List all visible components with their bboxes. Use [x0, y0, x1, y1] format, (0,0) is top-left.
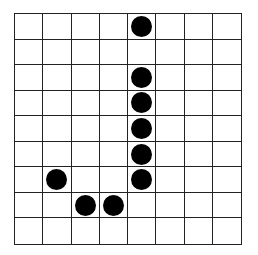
grid-cell-r5-c7: [213, 142, 241, 168]
grid-cell-r0-c4: [128, 14, 156, 40]
grid-cell-r8-c4: [128, 218, 156, 244]
grid-cell-r6-c7: [213, 167, 241, 193]
grid-cell-r7-c0: [15, 193, 43, 219]
grid-cell-r5-c5: [156, 142, 184, 168]
filled-dot: [131, 118, 152, 139]
grid-cell-r4-c1: [43, 116, 71, 142]
grid-cell-r2-c3: [100, 65, 128, 91]
grid-cell-r0-c1: [43, 14, 71, 40]
grid-cell-r1-c7: [213, 40, 241, 66]
grid-cell-r0-c7: [213, 14, 241, 40]
grid-cell-r3-c3: [100, 91, 128, 117]
filled-dot: [131, 67, 152, 88]
grid-cell-r0-c3: [100, 14, 128, 40]
grid-cell-r3-c5: [156, 91, 184, 117]
grid-cell-r1-c4: [128, 40, 156, 66]
grid-cell-r6-c4: [128, 167, 156, 193]
grid-cell-r7-c4: [128, 193, 156, 219]
grid-cell-r7-c3: [100, 193, 128, 219]
filled-dot: [131, 92, 152, 113]
grid-cell-r5-c6: [185, 142, 213, 168]
grid-cell-r3-c1: [43, 91, 71, 117]
grid-cell-r6-c0: [15, 167, 43, 193]
grid-cell-r4-c2: [72, 116, 100, 142]
grid-cell-r1-c6: [185, 40, 213, 66]
grid-cell-r7-c6: [185, 193, 213, 219]
grid-cell-r2-c4: [128, 65, 156, 91]
grid-cell-r2-c0: [15, 65, 43, 91]
grid-cell-r4-c0: [15, 116, 43, 142]
grid-cell-r7-c2: [72, 193, 100, 219]
grid-cell-r7-c5: [156, 193, 184, 219]
filled-dot: [131, 144, 152, 165]
grid-cell-r2-c6: [185, 65, 213, 91]
grid-cell-r8-c0: [15, 218, 43, 244]
grid-cell-r7-c1: [43, 193, 71, 219]
grid-cell-r3-c2: [72, 91, 100, 117]
grid-cell-r0-c6: [185, 14, 213, 40]
filled-dot: [131, 16, 152, 37]
grid-cell-r6-c6: [185, 167, 213, 193]
grid-cell-r2-c7: [213, 65, 241, 91]
dot-grid: [14, 13, 242, 245]
grid-cell-r1-c1: [43, 40, 71, 66]
grid-cell-r5-c2: [72, 142, 100, 168]
grid-cell-r3-c0: [15, 91, 43, 117]
grid-cell-r6-c1: [43, 167, 71, 193]
filled-dot: [75, 195, 96, 216]
grid-cell-r8-c3: [100, 218, 128, 244]
filled-dot: [103, 195, 124, 216]
grid-cell-r7-c7: [213, 193, 241, 219]
grid-cell-r8-c6: [185, 218, 213, 244]
grid-cell-r5-c3: [100, 142, 128, 168]
grid-cell-r1-c5: [156, 40, 184, 66]
grid-cell-r4-c6: [185, 116, 213, 142]
grid-cell-r4-c4: [128, 116, 156, 142]
grid-cell-r1-c2: [72, 40, 100, 66]
grid-cell-r8-c7: [213, 218, 241, 244]
filled-dot: [46, 169, 67, 190]
grid-cell-r0-c5: [156, 14, 184, 40]
grid-cell-r3-c6: [185, 91, 213, 117]
grid-cell-r6-c3: [100, 167, 128, 193]
grid-cell-r6-c2: [72, 167, 100, 193]
grid-cell-r8-c5: [156, 218, 184, 244]
filled-dot: [131, 169, 152, 190]
grid-cell-r3-c4: [128, 91, 156, 117]
grid-cell-r0-c2: [72, 14, 100, 40]
grid-cell-r6-c5: [156, 167, 184, 193]
grid-cell-r5-c4: [128, 142, 156, 168]
grid-cell-r4-c7: [213, 116, 241, 142]
grid-cell-r4-c5: [156, 116, 184, 142]
grid-cell-r5-c1: [43, 142, 71, 168]
grid-cell-r1-c0: [15, 40, 43, 66]
grid-cell-r2-c5: [156, 65, 184, 91]
grid-cell-r2-c1: [43, 65, 71, 91]
grid-cell-r2-c2: [72, 65, 100, 91]
grid-cell-r8-c1: [43, 218, 71, 244]
grid-cell-r4-c3: [100, 116, 128, 142]
grid-cell-r5-c0: [15, 142, 43, 168]
grid-cell-r8-c2: [72, 218, 100, 244]
grid-cell-r1-c3: [100, 40, 128, 66]
grid-cell-r0-c0: [15, 14, 43, 40]
grid-cell-r3-c7: [213, 91, 241, 117]
